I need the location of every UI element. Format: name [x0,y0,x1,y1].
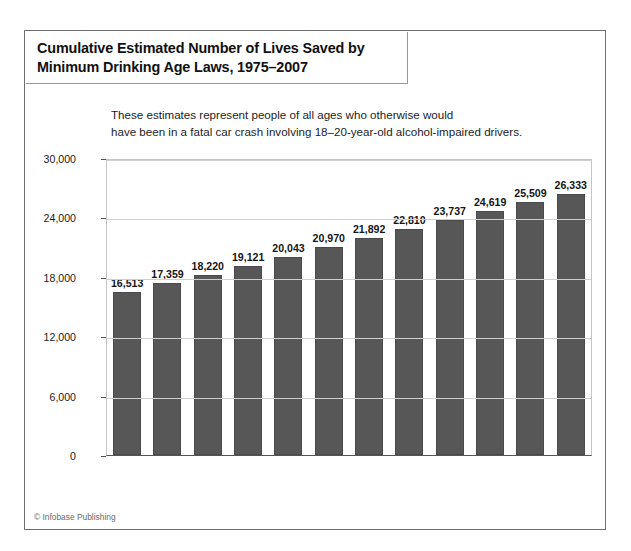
bar-value-label: 26,333 [555,179,587,191]
bar-value-label: 18,220 [192,260,224,272]
bar[interactable] [557,194,585,455]
y-axis-tick-mark [101,337,106,338]
y-axis-tick-label: 24,000 [0,212,76,224]
bar-value-label: 21,892 [353,223,385,235]
gridline [107,160,591,161]
figure-subtitle-line-1: These estimates represent people of all … [111,107,591,124]
bar-value-label: 19,121 [232,251,264,263]
figure-frame: Cumulative Estimated Number of Lives Sav… [24,30,606,530]
bar-slot: 17,359 [147,160,187,455]
bar-value-label: 24,619 [474,196,506,208]
y-axis-tick-mark [101,218,106,219]
bar-slot: 25,509 [510,160,550,455]
y-axis-tick-mark [101,397,106,398]
bar[interactable] [234,266,262,455]
y-axis-tick-label: 12,000 [0,331,76,343]
bar-slot: 19,121 [228,160,268,455]
figure-subtitle: These estimates represent people of all … [111,107,591,140]
bar-slot: 23,737 [430,160,470,455]
figure-title-line-1: Cumulative Estimated Number of Lives Sav… [37,39,407,58]
bar[interactable] [153,283,181,455]
bar-value-label: 20,970 [313,232,345,244]
bar-value-label: 25,509 [514,187,546,199]
bar[interactable] [516,202,544,455]
bar[interactable] [194,275,222,455]
bar-chart: 16,51317,35918,22019,12120,04320,97021,8… [82,156,592,456]
y-axis-tick-label: 6,000 [0,391,76,403]
bar[interactable] [113,292,141,455]
y-axis-tick-label: 18,000 [0,272,76,284]
bar[interactable] [395,229,423,455]
figure-title-box: Cumulative Estimated Number of Lives Sav… [26,32,408,84]
bar-slot: 22,810 [389,160,429,455]
bar-slot: 21,892 [349,160,389,455]
bar[interactable] [355,238,383,455]
y-axis-tick-label: 30,000 [0,153,76,165]
bar-slot: 24,619 [470,160,510,455]
gridline [107,398,591,399]
y-axis-tick-mark [101,159,106,160]
y-axis-tick-label: 0 [0,450,76,462]
bar-slot: 20,970 [309,160,349,455]
bar[interactable] [476,211,504,455]
bar-value-label: 23,737 [434,205,466,217]
figure-title-line-2: Minimum Drinking Age Laws, 1975–2007 [37,58,407,77]
plot-area: 16,51317,35918,22019,12120,04320,97021,8… [106,159,592,456]
bar-slot: 18,220 [188,160,228,455]
bar-value-label: 20,043 [272,242,304,254]
copyright-credit: © Infobase Publishing [34,512,116,522]
gridline [107,338,591,339]
y-axis-tick-mark [101,456,106,457]
bar-slot: 20,043 [268,160,308,455]
gridline [107,219,591,220]
bar-series: 16,51317,35918,22019,12120,04320,97021,8… [107,160,591,455]
bar-slot: 16,513 [107,160,147,455]
gridline [107,279,591,280]
bar-slot: 26,333 [551,160,591,455]
y-axis-tick-mark [101,278,106,279]
figure-subtitle-line-2: have been in a fatal car crash involving… [111,124,591,141]
bar[interactable] [274,257,302,455]
